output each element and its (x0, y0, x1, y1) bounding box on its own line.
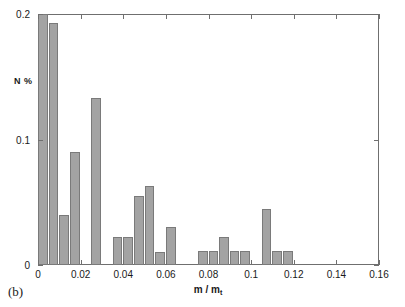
x-axis-tick-label: 0.14 (327, 269, 346, 280)
histogram-bar (272, 251, 282, 265)
x-axis-tick (336, 260, 337, 265)
x-axis-label-text: m / m (194, 284, 220, 295)
y-axis-tick-label: 0 (0, 260, 30, 271)
histogram-bar (240, 251, 250, 265)
histogram-bar (166, 227, 176, 265)
plot-area (38, 14, 379, 265)
x-axis-tick-label: 0.12 (284, 269, 303, 280)
x-axis-tick-top (294, 14, 295, 19)
y-axis-tick-label: 0.1 (0, 134, 30, 145)
histogram-bar (219, 237, 229, 265)
histogram-bar (134, 196, 144, 265)
x-axis-tick-label: 0.02 (71, 269, 90, 280)
histogram-bar (198, 251, 208, 265)
y-axis-tick-right (374, 140, 379, 141)
histogram-bar (262, 209, 272, 265)
y-axis-tick-right (374, 14, 379, 15)
y-axis-tick-label: 0.2 (0, 9, 30, 20)
histogram-bar (70, 152, 80, 265)
histogram-bar (209, 251, 219, 265)
x-axis-tick-label: 0.06 (156, 269, 175, 280)
histogram-bar (155, 252, 165, 265)
histogram-bar (123, 237, 133, 265)
x-axis-tick-label: 0 (35, 269, 41, 280)
x-axis-tick-top (81, 14, 82, 19)
y-axis-tick-right (374, 265, 379, 266)
x-axis-tick-label: 0.1 (244, 269, 258, 280)
x-axis-tick-label: 0.04 (114, 269, 133, 280)
x-axis-tick-top (166, 14, 167, 19)
histogram-bar (283, 251, 293, 265)
x-axis-tick (379, 260, 380, 265)
histogram-bar (145, 186, 155, 265)
x-axis-label: m / mt (194, 284, 222, 295)
histogram-bar (230, 251, 240, 265)
x-axis-tick-top (379, 14, 380, 19)
panel-label: (b) (8, 284, 23, 300)
x-axis-tick (209, 260, 210, 265)
y-axis-label: N % (14, 76, 33, 86)
x-axis-tick (123, 260, 124, 265)
x-axis-tick (294, 260, 295, 265)
x-axis-tick-label: 0.16 (369, 269, 388, 280)
histogram-bar (49, 23, 59, 265)
x-axis-label-subscript: t (220, 289, 222, 296)
y-axis-tick (38, 140, 43, 141)
x-axis-tick-top (251, 14, 252, 19)
x-axis-tick-top (123, 14, 124, 19)
x-axis-tick (166, 260, 167, 265)
x-axis-tick-top (209, 14, 210, 19)
x-axis-tick (251, 260, 252, 265)
y-axis-tick (38, 265, 43, 266)
histogram-bar (91, 98, 101, 265)
histogram-bar (113, 237, 123, 265)
histogram-bar (59, 215, 69, 265)
y-axis-tick (38, 14, 43, 15)
x-axis-tick (81, 260, 82, 265)
x-axis-tick-top (336, 14, 337, 19)
histogram-figure: N % m / mt (b) 00.020.040.060.080.10.120… (0, 0, 405, 307)
x-axis-tick-label: 0.08 (199, 269, 218, 280)
